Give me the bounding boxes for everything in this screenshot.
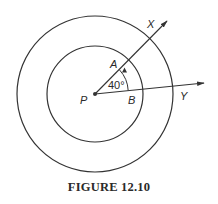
ray-px [95,21,167,94]
label-y: Y [180,90,188,102]
concentric-circles-diagram: P A B X Y 40° [0,0,218,204]
figure-caption: FIGURE 12.10 [0,180,218,195]
label-p: P [80,94,88,106]
angle-arrow-icon [122,68,127,73]
center-point [93,92,97,96]
angle-label: 40° [108,79,125,91]
label-b: B [128,94,135,106]
label-x: X [146,18,155,30]
label-a: A [109,58,117,70]
